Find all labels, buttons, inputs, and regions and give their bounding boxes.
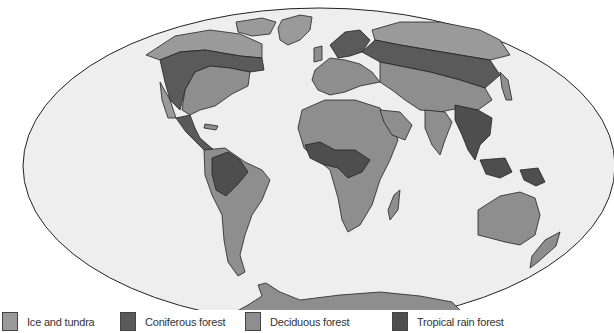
legend-item-tropical-rain-forest: Tropical rain forest <box>392 312 504 331</box>
map-legend: Ice and tundra Coniferous forest Deciduo… <box>0 309 614 333</box>
legend-item-deciduous-forest: Deciduous forest <box>245 312 349 331</box>
legend-label: Deciduous forest <box>270 316 349 328</box>
legend-swatch <box>2 312 18 331</box>
legend-label: Ice and tundra <box>27 316 95 328</box>
legend-label: Coniferous forest <box>145 316 225 328</box>
world-biome-map <box>0 0 614 310</box>
legend-item-coniferous-forest: Coniferous forest <box>120 312 225 331</box>
region-british-isles <box>314 46 322 62</box>
legend-swatch <box>392 312 408 331</box>
legend-label: Tropical rain forest <box>417 316 504 328</box>
legend-item-ice-and-tundra: Ice and tundra <box>2 312 95 331</box>
region-arctic-islands <box>236 18 276 36</box>
legend-swatch <box>120 312 136 331</box>
legend-swatch <box>245 312 261 331</box>
